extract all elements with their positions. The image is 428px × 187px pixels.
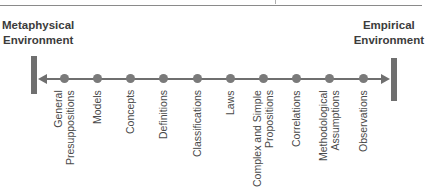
stage-label-line: Models (91, 90, 103, 124)
right-env-line2: Environment (354, 33, 424, 48)
stage-label-line: Correlations (290, 90, 302, 147)
empirical-environment-label: Empirical Environment (354, 18, 424, 48)
top-rule-divider (0, 5, 422, 6)
stage-label-line: Propositions (263, 90, 275, 187)
stage-label-line: Classifications (191, 90, 203, 157)
stage-label: MethodologicalAssumptions (317, 90, 341, 161)
stage-label: Complex and SimplePropositions (251, 90, 275, 187)
stage-dot (60, 74, 69, 83)
stage-label-line: Presuppositions (64, 90, 76, 165)
stage-dot (159, 74, 168, 83)
arrow-left-icon (38, 74, 47, 84)
stage-label: Laws (224, 90, 236, 115)
right-env-line1: Empirical (354, 18, 424, 33)
stage-label-line: Laws (224, 90, 236, 115)
top-rule-tick (275, 0, 276, 4)
stage-label: Classifications (191, 90, 203, 157)
metaphysical-environment-label: Metaphysical Environment (2, 18, 74, 48)
stage-label-line: Observations (357, 90, 369, 152)
stage-dot (292, 74, 301, 83)
stage-label-line: General (52, 90, 64, 165)
stage-label: Correlations (290, 90, 302, 147)
stage-dot (193, 74, 202, 83)
metaphysical-end-bar (31, 56, 37, 94)
stage-dot (126, 74, 135, 83)
left-env-line1: Metaphysical (2, 18, 74, 33)
stage-dot (325, 74, 334, 83)
stage-label: Models (91, 90, 103, 124)
continuum-axis-line (40, 78, 386, 80)
arrow-right-icon (381, 74, 390, 84)
stage-dot (259, 74, 268, 83)
stage-label-line: Definitions (157, 90, 169, 139)
stage-label: GeneralPresuppositions (52, 90, 76, 165)
left-env-line2: Environment (2, 33, 74, 48)
stage-label-line: Complex and Simple (251, 90, 263, 187)
stage-dot (359, 74, 368, 83)
stage-label: Concepts (124, 90, 136, 134)
empirical-end-bar (391, 58, 397, 101)
stage-label-line: Assumptions (329, 90, 341, 161)
stage-dot (226, 74, 235, 83)
stage-dot (93, 74, 102, 83)
stage-label: Definitions (157, 90, 169, 139)
stage-label: Observations (357, 90, 369, 152)
stage-label-line: Concepts (124, 90, 136, 134)
stage-label-line: Methodological (317, 90, 329, 161)
